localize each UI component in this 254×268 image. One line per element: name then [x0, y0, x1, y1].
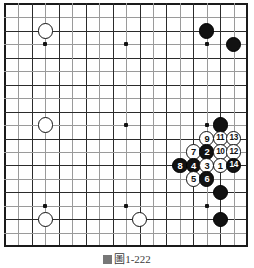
star-point: [43, 204, 47, 208]
move-number-label: 4: [191, 161, 196, 170]
star-point: [43, 42, 47, 46]
caption-text: 圖1-222: [114, 253, 151, 265]
stone-white[interactable]: [38, 117, 53, 132]
move-number-label: 10: [216, 148, 224, 156]
move-number-label: 8: [177, 161, 182, 170]
stone-black[interactable]: [213, 185, 228, 200]
move-number-label: 14: [230, 161, 238, 169]
grid-line-vertical: [180, 3, 181, 247]
star-point: [205, 123, 209, 127]
stone-white[interactable]: [132, 212, 147, 227]
stone-black[interactable]: [226, 37, 241, 52]
move-number-label: 11: [216, 134, 224, 142]
grid-line-horizontal: [4, 245, 248, 247]
go-diagram-page: 9111372101284311456 圖1-222: [0, 0, 254, 268]
move-number-label: 3: [204, 161, 209, 170]
go-board-grid[interactable]: 9111372101284311456: [4, 3, 249, 246]
grid-line-horizontal: [4, 233, 248, 234]
move-number-label: 9: [204, 134, 209, 143]
stone-white[interactable]: [38, 23, 53, 38]
stone-black[interactable]: [199, 23, 214, 38]
grid-line-vertical: [140, 3, 141, 247]
move-number-label: 7: [191, 147, 196, 156]
move-number-label: 5: [191, 174, 196, 183]
star-point: [124, 123, 128, 127]
figure-caption: 圖1-222: [0, 250, 254, 266]
star-point: [205, 42, 209, 46]
grid-line-vertical: [153, 3, 154, 247]
grid-line-vertical: [166, 3, 167, 247]
move-stone-14[interactable]: 14: [226, 158, 241, 173]
move-number-label: 2: [204, 147, 209, 156]
move-number-label: 13: [230, 134, 238, 142]
grid-line-vertical: [246, 3, 248, 247]
stone-white[interactable]: [38, 212, 53, 227]
go-board-container: 9111372101284311456: [0, 0, 254, 248]
move-number-label: 6: [204, 174, 209, 183]
move-number-label: 12: [230, 148, 238, 156]
move-number-label: 1: [218, 161, 223, 170]
grid-line-vertical: [193, 3, 194, 247]
star-point: [205, 204, 209, 208]
star-point: [124, 42, 128, 46]
stone-black[interactable]: [213, 212, 228, 227]
grid-line-horizontal: [4, 192, 248, 193]
move-stone-6[interactable]: 6: [199, 171, 214, 186]
caption-marker-icon: [103, 255, 112, 264]
star-point: [124, 204, 128, 208]
